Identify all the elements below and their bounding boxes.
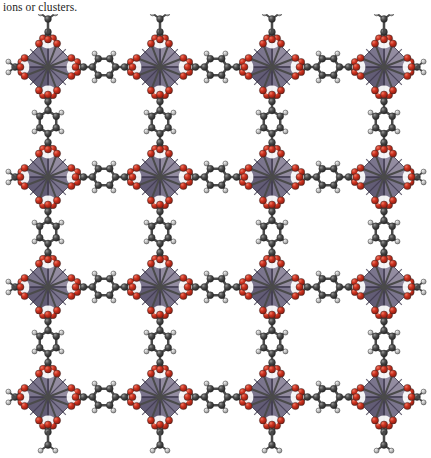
carbon-atom [381,240,388,247]
carbon-atom [157,350,164,357]
hydrogen-atom [256,220,261,225]
carbon-atom [381,107,388,114]
oxygen-atom [357,164,364,171]
oxygen-atom [156,311,163,318]
oxygen-atom [259,87,266,94]
oxygen-atom [389,87,396,94]
carbon-atom [95,275,102,282]
carbon-atom [381,139,388,146]
oxygen-atom [389,40,396,47]
oxygen-atom [165,197,172,204]
oxygen-atom [357,402,364,409]
hydrogen-atom [223,271,228,276]
carbon-atom [269,249,276,256]
oxygen-atom [245,274,252,281]
oxygen-atom [68,164,75,171]
oxygen-atom [17,393,24,400]
carbon-atom [157,107,164,114]
oxygen-atom [268,146,275,153]
oxygen-atom [147,417,154,424]
carbon-atom [269,442,276,449]
hydrogen-atom [316,188,321,193]
oxygen-atom [156,146,163,153]
mof-cluster-node [353,366,415,428]
carbon-atom [260,113,267,120]
oxygen-atom [357,292,364,299]
carbon-atom [319,275,326,282]
oxygen-atom [129,283,136,290]
hydrogen-atom [335,408,340,413]
oxygen-atom [35,197,42,204]
hydrogen-atom [374,448,379,453]
hydrogen-atom [165,448,170,453]
oxygen-atom [245,182,252,189]
carbon-atom [207,385,214,392]
oxygen-atom [259,307,266,314]
hydrogen-atom [395,129,400,134]
hydrogen-atom [6,169,11,174]
oxygen-atom [165,150,172,157]
oxygen-atom [268,256,275,263]
oxygen-atom [147,260,154,267]
hydrogen-atom [171,330,176,335]
oxygen-atom [21,182,28,189]
carbon-atom [319,55,326,62]
carbon-atom [269,318,276,325]
carbon-atom [260,223,267,230]
hydrogen-atom [204,381,209,386]
benzenedicarboxylate-linker [186,51,247,83]
hydrogen-atom [316,51,321,56]
hydrogen-atom [335,188,340,193]
oxygen-atom [259,370,266,377]
carbon-atom [106,55,113,62]
hydrogen-atom [204,271,209,276]
oxygen-atom [292,402,299,409]
oxygen-atom [277,260,284,267]
hydrogen-atom [111,298,116,303]
oxygen-atom [371,307,378,314]
carbon-atom [106,402,113,409]
carbon-atom [269,327,276,334]
oxygen-atom [53,40,60,47]
hydrogen-atom [92,161,97,166]
hydrogen-atom [256,110,261,115]
carbon-atom [224,64,231,71]
carbon-atom [381,359,388,366]
hydrogen-atom [59,349,64,354]
carbon-atom [313,394,320,401]
oxygen-atom [21,164,28,171]
carbon-atom [192,284,199,291]
oxygen-atom [408,393,415,400]
mof-cluster-node [353,146,415,208]
carbon-atom [389,113,396,120]
oxygen-atom [268,91,275,98]
mof-cluster-node [241,146,303,208]
carbon-atom [165,344,172,351]
oxygen-atom [353,283,360,290]
oxygen-atom [53,370,60,377]
oxygen-atom [68,292,75,299]
hydrogen-atom [421,290,426,295]
oxygen-atom [165,307,172,314]
carbon-atom [201,284,208,291]
carbon-atom [313,284,320,291]
carbon-atom [95,385,102,392]
carbon-atom [157,240,164,247]
carbon-atom [319,402,326,409]
mof-cluster-node [129,36,191,98]
hydrogen-atom [111,51,116,56]
carbon-atom [89,394,96,401]
oxygen-atom [292,164,299,171]
oxygen-atom [380,36,387,43]
hydrogen-atom [92,78,97,83]
benzenedicarboxylate-linker [298,271,359,303]
oxygen-atom [277,307,284,314]
hydrogen-atom [6,400,11,405]
oxygen-atom [296,63,303,70]
oxygen-atom [156,421,163,428]
carbon-atom [157,318,164,325]
oxygen-atom [268,201,275,208]
carbon-atom [277,113,284,120]
hydrogen-atom [144,330,149,335]
benzenedicarboxylate-linker [186,381,247,413]
